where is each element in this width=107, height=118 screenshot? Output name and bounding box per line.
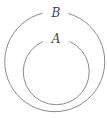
set-b-circle xyxy=(5,13,105,111)
set-a-circle xyxy=(23,42,89,105)
set-a-label: A xyxy=(51,32,61,46)
nested-sets-diagram: B A xyxy=(0,0,107,118)
set-b-label: B xyxy=(51,6,61,20)
